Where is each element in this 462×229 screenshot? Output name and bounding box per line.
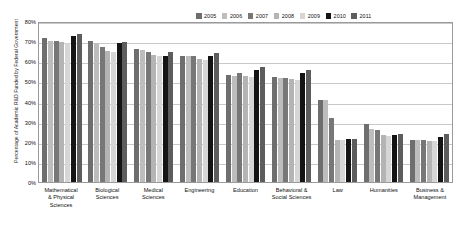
y-axis-tick: 50% [12, 79, 36, 85]
x-axis-category-label: Law [315, 187, 361, 229]
x-axis-category-labels: Mathematical& PhysicalSciencesBiological… [38, 187, 453, 229]
bar [48, 41, 53, 182]
legend-label: 2010 [334, 13, 346, 19]
bar [369, 129, 374, 182]
bar [329, 118, 334, 182]
bar [398, 134, 403, 182]
bar [323, 100, 328, 183]
bar [352, 139, 357, 182]
x-axis-category-label: Engineering [176, 187, 222, 229]
bar [100, 47, 105, 182]
bar [444, 134, 449, 182]
legend-item[interactable]: 2009 [300, 13, 320, 19]
legend-item[interactable]: 2008 [274, 13, 294, 19]
bar [88, 41, 93, 182]
x-axis-category-label: Behavioral &Social Sciences [269, 187, 315, 229]
legend: 2005200620072008200920102011 [196, 13, 377, 19]
y-axis-tick: 10% [12, 160, 36, 166]
bar [203, 60, 208, 182]
legend-swatch-icon [274, 13, 280, 19]
bar [54, 41, 59, 182]
bar-group [223, 23, 269, 182]
bar [289, 79, 294, 182]
bar [254, 70, 259, 182]
legend-swatch-icon [351, 13, 357, 19]
bar-group [314, 23, 360, 182]
bar [146, 52, 151, 182]
bar [283, 78, 288, 182]
x-axis-category-label: Mathematical& PhysicalSciences [38, 187, 84, 229]
legend-swatch-icon [196, 13, 202, 19]
bar [208, 56, 213, 182]
bar-group [268, 23, 314, 182]
legend-item[interactable]: 2006 [222, 13, 242, 19]
y-axis-tick: 40% [12, 100, 36, 106]
x-axis-category-label: BiologicalSciences [84, 187, 130, 229]
legend-item[interactable]: 2007 [248, 13, 268, 19]
bar [295, 80, 300, 182]
bar [65, 43, 70, 182]
legend-label: 2011 [359, 13, 371, 19]
legend-label: 2009 [308, 13, 320, 19]
bar [340, 140, 345, 182]
bar [197, 59, 202, 182]
bar [105, 51, 110, 182]
bar [278, 78, 283, 182]
bar [306, 70, 311, 182]
legend-label: 2005 [204, 13, 216, 19]
bar [168, 52, 173, 182]
bar [94, 43, 99, 182]
bar [392, 135, 397, 182]
bar-group [406, 23, 452, 182]
bar [111, 52, 116, 182]
bar [243, 76, 248, 182]
bar-chart: Percentage of Academic R&D Funded by Fed… [0, 0, 462, 229]
bar [421, 140, 426, 182]
bar [151, 55, 156, 182]
legend-item[interactable]: 2010 [326, 13, 346, 19]
bar-group [131, 23, 177, 182]
bar [249, 77, 254, 182]
y-axis-tick: 0% [12, 180, 36, 186]
bar [375, 130, 380, 182]
bar [232, 76, 237, 182]
bar [318, 100, 323, 183]
bar-group [85, 23, 131, 182]
legend-swatch-icon [300, 13, 306, 19]
bar [122, 42, 127, 182]
x-axis-category-label: MedicalSciences [130, 187, 176, 229]
bar [346, 139, 351, 182]
bar [415, 140, 420, 182]
bar [364, 124, 369, 182]
bar [71, 36, 76, 182]
x-axis-category-label: Education [222, 187, 268, 229]
bar-group [39, 23, 85, 182]
legend-swatch-icon [248, 13, 254, 19]
bar [191, 56, 196, 182]
y-axis-tick: 70% [12, 39, 36, 45]
bar [226, 75, 231, 182]
bar [186, 56, 191, 182]
legend-label: 2007 [256, 13, 268, 19]
legend-item[interactable]: 2005 [196, 13, 216, 19]
legend-label: 2008 [282, 13, 294, 19]
bar [410, 140, 415, 182]
bar [335, 140, 340, 182]
bar [427, 141, 432, 182]
bar [438, 137, 443, 182]
legend-swatch-icon [222, 13, 228, 19]
bar [214, 53, 219, 182]
y-axis-tick: 30% [12, 120, 36, 126]
y-axis-tick-labels: 0%10%20%30%40%50%60%70%80% [12, 0, 36, 229]
legend-label: 2006 [230, 13, 242, 19]
y-axis-tick: 20% [12, 140, 36, 146]
bar-group [360, 23, 406, 182]
bar [140, 50, 145, 182]
plot-area [38, 22, 453, 183]
legend-item[interactable]: 2011 [351, 13, 371, 19]
bar [272, 77, 277, 182]
bar [59, 42, 64, 182]
y-axis-tick: 60% [12, 59, 36, 65]
bar [300, 73, 305, 182]
bar [381, 135, 386, 182]
